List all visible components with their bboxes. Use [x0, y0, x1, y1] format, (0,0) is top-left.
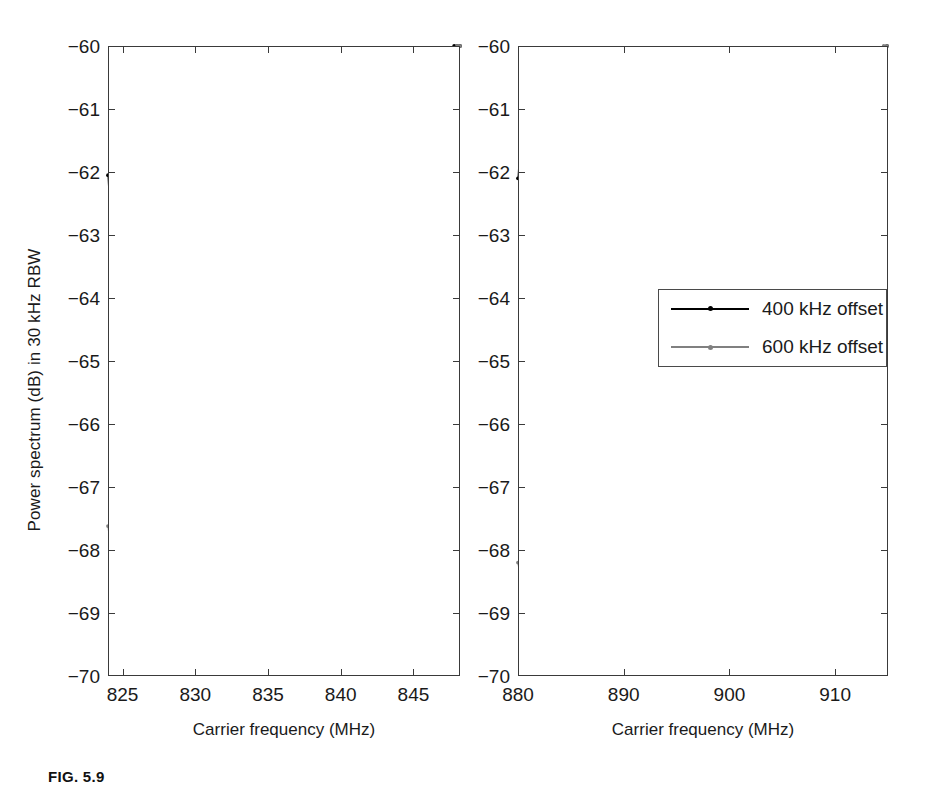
x-tick-bottom [413, 669, 414, 676]
figure-caption: FIG. 5.9 [48, 768, 105, 787]
x-tick-bottom [341, 669, 342, 676]
x-tick-top [195, 46, 196, 53]
x-tick-top [624, 46, 625, 53]
x-axis-label-right: Carrier frequency (MHz) [518, 720, 888, 740]
x-tick-label: 910 [795, 685, 875, 704]
x-tick-top [835, 46, 836, 53]
y-tick-left [518, 298, 525, 299]
x-tick-top [729, 46, 730, 53]
y-tick-label: −60 [456, 37, 510, 56]
x-tick-top [123, 46, 124, 53]
x-tick-bottom [518, 669, 519, 676]
y-tick-left [108, 46, 115, 47]
x-tick-label: 890 [584, 685, 664, 704]
legend: 400 kHz offset 600 kHz offset [658, 289, 887, 368]
y-tick-left [108, 361, 115, 362]
y-tick-left [108, 550, 115, 551]
y-tick-label: −61 [456, 100, 510, 119]
y-tick-left [518, 46, 525, 47]
y-tick-right [881, 613, 888, 614]
x-tick-top [518, 46, 519, 53]
x-tick-label: 830 [155, 685, 235, 704]
y-tick-left [518, 361, 525, 362]
legend-line-600 [671, 346, 749, 348]
x-tick-label: 845 [373, 685, 453, 704]
y-tick-label: −64 [46, 289, 100, 308]
y-tick-left [108, 109, 115, 110]
y-tick-left [518, 235, 525, 236]
x-tick-bottom [268, 669, 269, 676]
x-tick-label: 835 [228, 685, 308, 704]
y-tick-left [108, 235, 115, 236]
y-tick-left [108, 298, 115, 299]
y-tick-label: −63 [456, 226, 510, 245]
y-axis-label-container: Power spectrum (dB) in 30 kHz RBW [0, 0, 50, 787]
y-tick-left [108, 487, 115, 488]
x-axis-label-left: Carrier frequency (MHz) [108, 720, 460, 740]
y-tick-left [518, 172, 525, 173]
x-tick-top [341, 46, 342, 53]
y-tick-right [881, 172, 888, 173]
x-tick-bottom [123, 669, 124, 676]
y-tick-label: −67 [456, 478, 510, 497]
y-tick-label: −65 [456, 352, 510, 371]
y-tick-label: −70 [46, 667, 100, 686]
legend-entry-400: 400 kHz offset [659, 290, 886, 328]
y-tick-label: −62 [46, 163, 100, 182]
y-tick-right [881, 424, 888, 425]
y-tick-label: −69 [456, 604, 510, 623]
y-tick-right [881, 109, 888, 110]
y-tick-left [108, 172, 115, 173]
y-tick-left [518, 109, 525, 110]
y-tick-left [518, 613, 525, 614]
legend-line-400 [671, 308, 749, 310]
y-tick-left [518, 487, 525, 488]
x-tick-bottom [835, 669, 836, 676]
plot-ticks-left [108, 46, 460, 676]
y-tick-label: −66 [46, 415, 100, 434]
y-tick-label: −61 [46, 100, 100, 119]
legend-label-400: 400 kHz offset [762, 298, 883, 320]
y-tick-right [881, 487, 888, 488]
legend-entry-600: 600 kHz offset [659, 328, 886, 366]
y-tick-label: −69 [46, 604, 100, 623]
x-tick-bottom [729, 669, 730, 676]
y-tick-left [108, 424, 115, 425]
x-tick-label: 840 [301, 685, 381, 704]
y-tick-label: −66 [456, 415, 510, 434]
plot-panel-left [108, 46, 460, 676]
figure-root: Power spectrum (dB) in 30 kHz RBW −70−69… [0, 0, 926, 787]
y-tick-label: −65 [46, 352, 100, 371]
y-tick-right [881, 46, 888, 47]
y-tick-left [108, 613, 115, 614]
y-tick-right [881, 235, 888, 236]
x-tick-bottom [624, 669, 625, 676]
y-tick-left [518, 550, 525, 551]
x-tick-label: 880 [478, 685, 558, 704]
y-tick-label: −63 [46, 226, 100, 245]
y-tick-label: −67 [46, 478, 100, 497]
y-tick-right [881, 550, 888, 551]
y-tick-label: −64 [456, 289, 510, 308]
x-tick-bottom [195, 669, 196, 676]
x-tick-top [268, 46, 269, 53]
x-tick-label: 900 [689, 685, 769, 704]
y-tick-label: −68 [456, 541, 510, 560]
plot-panel-right: 400 kHz offset 600 kHz offset [518, 46, 888, 676]
y-tick-label: −62 [456, 163, 510, 182]
legend-label-600: 600 kHz offset [762, 336, 883, 358]
y-tick-left [518, 424, 525, 425]
y-tick-label: −60 [46, 37, 100, 56]
x-tick-label: 825 [83, 685, 163, 704]
y-tick-label: −68 [46, 541, 100, 560]
x-tick-top [413, 46, 414, 53]
